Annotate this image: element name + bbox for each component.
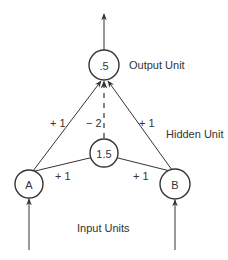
weight-a-to-hidden: + 1 <box>55 170 71 182</box>
output-node-value: .5 <box>99 60 108 72</box>
hidden-unit-label: Hidden Unit <box>166 128 223 140</box>
edge-b-to-hidden <box>110 156 170 171</box>
weight-b-to-output: + 1 <box>139 117 155 129</box>
output-unit-label: Output Unit <box>129 59 185 71</box>
hidden-node-value: 1.5 <box>96 148 111 160</box>
weight-a-to-output: + 1 <box>50 117 66 129</box>
input-node-b: B <box>160 169 190 199</box>
input-node-a-value: A <box>25 179 33 191</box>
output-node: .5 <box>89 50 119 80</box>
input-units-label: Input Units <box>77 222 130 234</box>
edge-a-to-hidden <box>35 156 98 171</box>
xor-network-diagram: .5 1.5 A B Output Unit Hidden Unit Input… <box>0 0 228 260</box>
weight-hidden-to-output: − 2 <box>86 117 102 129</box>
hidden-node: 1.5 <box>90 139 118 167</box>
input-node-a: A <box>15 170 43 198</box>
input-node-b-value: B <box>171 179 178 191</box>
weight-b-to-hidden: + 1 <box>133 170 149 182</box>
